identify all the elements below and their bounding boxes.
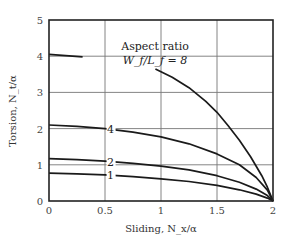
annotation-line2: W_f/L_f = 8 [123,54,188,67]
x-tick-label: 1 [158,205,164,216]
y-tick-label: 0 [37,196,43,207]
x-axis-label: Sliding, N_x/α [125,223,197,235]
y-tick-label: 2 [37,124,43,135]
y-tick-label: 3 [37,87,43,98]
x-tick-label: 0.5 [97,205,113,216]
curve-label-4: 4 [107,123,114,136]
curve-labels: 421 [107,123,116,182]
y-tick-label: 1 [37,160,43,171]
x-tick-label: 2 [270,205,276,216]
chart: 00.511.52 012345 421 Aspect ratio W_f/L_… [0,0,290,243]
x-ticks: 00.511.52 [46,205,276,216]
x-tick-label: 0 [46,205,52,216]
y-ticks: 012345 [37,15,43,207]
y-tick-label: 4 [37,51,43,62]
annotation-line1: Aspect ratio [120,40,189,53]
curve-label-1: 1 [107,169,114,182]
series-8-line [155,69,273,201]
y-axis-label: Torsion, N_t/α [7,75,19,147]
y-tick-label: 5 [37,15,43,26]
curve-label-2: 2 [107,156,114,169]
x-tick-label: 1.5 [209,205,225,216]
